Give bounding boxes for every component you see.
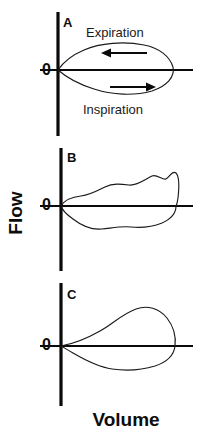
panel-c-graphics <box>0 0 206 437</box>
panel-c-loop-curve <box>61 307 175 370</box>
flow-volume-loop-figure: Flow Volume A 0 Expiration Inspiration B… <box>0 0 206 437</box>
panel-c-letter: C <box>67 288 76 301</box>
panel-c-origin-label: 0 <box>42 337 51 353</box>
